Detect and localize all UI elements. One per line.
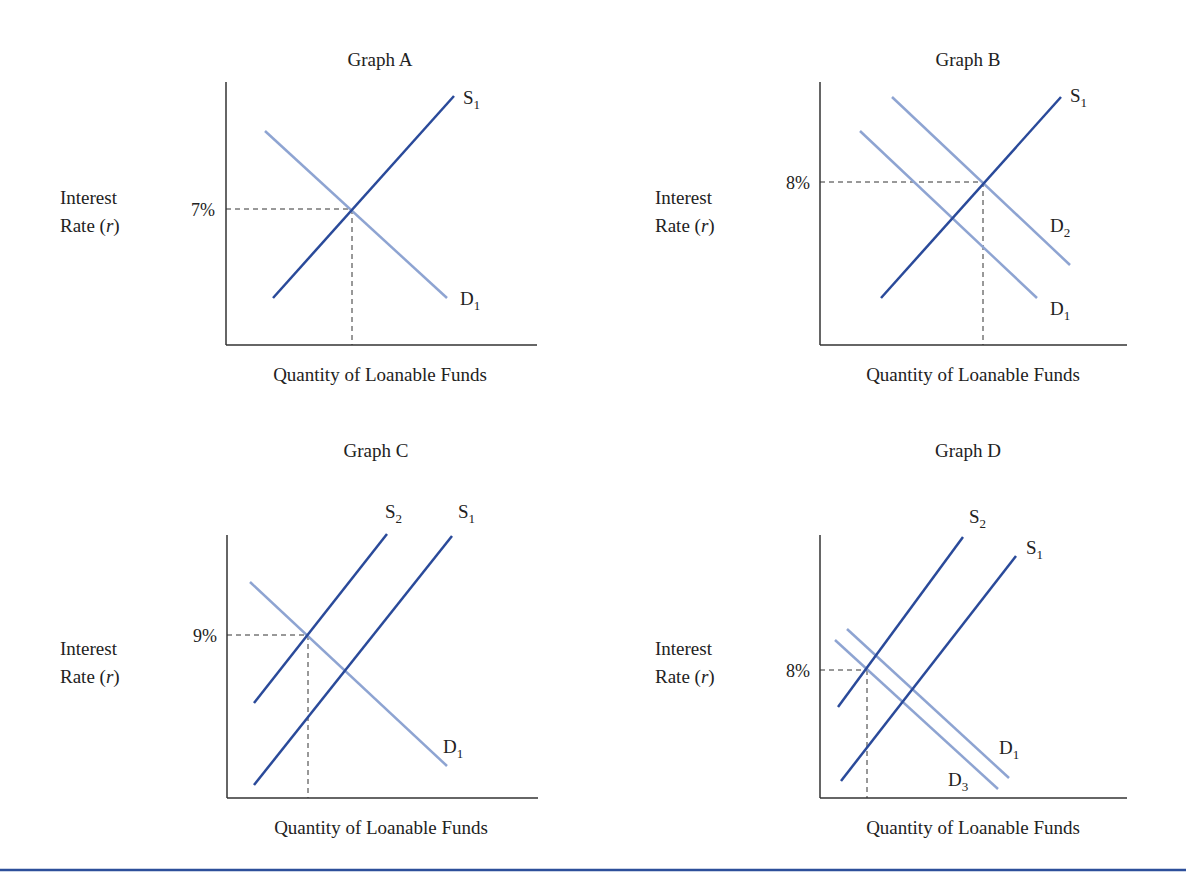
curve-label-s1: S1 xyxy=(458,501,475,526)
equilibrium-rate-label: 8% xyxy=(786,173,810,193)
y-axis-label-line1: Interest xyxy=(60,187,118,208)
graph-c: Graph C Interest Rate (r) 9% S2 S1 D1 Qu… xyxy=(60,440,538,838)
graph-title: Graph C xyxy=(344,440,409,461)
demand-curve-d1 xyxy=(860,131,1037,298)
curve-label-d1: D1 xyxy=(443,736,463,761)
curve-label-s1: S1 xyxy=(463,87,480,112)
graph-title: Graph B xyxy=(936,49,1001,70)
curve-label-s1: S1 xyxy=(1070,85,1087,110)
supply-curve-s2 xyxy=(254,534,387,703)
y-axis-label-line2: Rate (r) xyxy=(60,666,120,688)
supply-curve-s1 xyxy=(254,536,452,785)
y-axis-label-line2: Rate (r) xyxy=(60,215,120,237)
x-axis-label: Quantity of Loanable Funds xyxy=(866,364,1080,385)
curve-label-s2: S2 xyxy=(385,501,402,526)
demand-curve-d1 xyxy=(847,629,1009,778)
demand-curve-d1 xyxy=(265,131,447,298)
curve-label-s2: S2 xyxy=(969,506,986,531)
curve-label-d2: D2 xyxy=(1050,215,1070,240)
supply-curve-s2 xyxy=(838,537,963,707)
curve-label-d1: D1 xyxy=(999,737,1019,762)
y-axis-label-line1: Interest xyxy=(655,187,713,208)
supply-curve-s1 xyxy=(881,97,1061,298)
equilibrium-rate-label: 7% xyxy=(191,200,215,220)
curve-label-s1: S1 xyxy=(1026,537,1043,562)
graph-title: Graph D xyxy=(935,440,1001,461)
loanable-funds-figure: Graph A Interest Rate (r) 7% S1 D1 Quant… xyxy=(0,0,1186,880)
curve-label-d3: D3 xyxy=(948,769,968,794)
x-axis-label: Quantity of Loanable Funds xyxy=(866,817,1080,838)
curve-label-d1: D1 xyxy=(1050,298,1070,323)
demand-curve-d1 xyxy=(250,582,447,766)
graph-title: Graph A xyxy=(348,49,413,70)
y-axis-label-line2: Rate (r) xyxy=(655,666,715,688)
equilibrium-rate-label: 9% xyxy=(193,626,217,646)
equilibrium-rate-label: 8% xyxy=(786,661,810,681)
demand-curve-d3 xyxy=(835,640,998,789)
x-axis-label: Quantity of Loanable Funds xyxy=(274,817,488,838)
y-axis-label-line1: Interest xyxy=(655,638,713,659)
graph-a: Graph A Interest Rate (r) 7% S1 D1 Quant… xyxy=(60,49,537,385)
curve-label-d1: D1 xyxy=(460,288,480,313)
graph-d: Graph D Interest Rate (r) 8% S2 S1 D1 D3… xyxy=(655,440,1127,838)
x-axis-label: Quantity of Loanable Funds xyxy=(273,364,487,385)
y-axis-label-line1: Interest xyxy=(60,638,118,659)
graph-b: Graph B Interest Rate (r) 8% S1 D2 D1 Qu… xyxy=(655,49,1127,385)
supply-curve-s1 xyxy=(273,96,454,298)
y-axis-label-line2: Rate (r) xyxy=(655,215,715,237)
demand-curve-d2 xyxy=(892,97,1070,265)
